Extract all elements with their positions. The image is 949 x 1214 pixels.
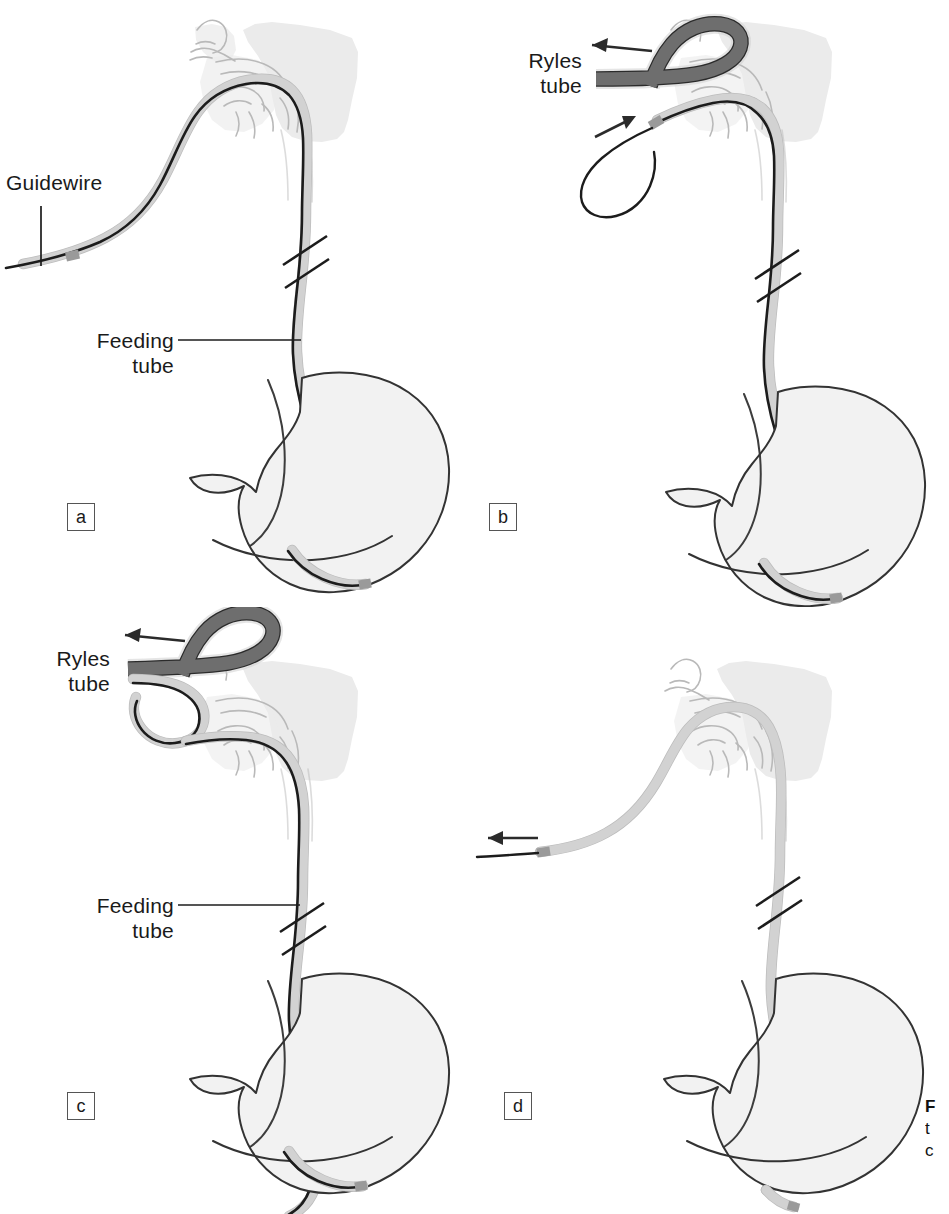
panel-tag-c: c — [67, 1092, 95, 1120]
guidewire-withdraw-arrow-head — [488, 831, 503, 845]
guidewire-label: Guidewire — [6, 170, 102, 195]
feeding-tube-label-c-line2: tube — [132, 919, 174, 942]
figure-caption: Ftc — [925, 1096, 949, 1176]
ryles-tube-label-b: Rylestube — [486, 48, 582, 98]
feeding-tube-label-line2: tube — [132, 354, 174, 377]
ryles-withdraw-arrow-head-c — [125, 628, 141, 642]
guide-push-arrow-head — [622, 116, 636, 129]
ryles-tube-label-c-line1: Ryles — [56, 647, 110, 670]
feeding-tube-label-a: Feedingtube — [50, 328, 174, 378]
ryles-withdraw-arrow-head — [592, 38, 608, 52]
feeding-tube-label-c-line1: Feeding — [97, 894, 174, 917]
withdrawn-guidewire — [477, 853, 538, 857]
feeding-tube-label-line1: Feeding — [97, 329, 174, 352]
ryles-tube-label-c-line2: tube — [68, 672, 110, 695]
guide-push-arrow-shaft — [595, 120, 629, 137]
feeding-tube-label-c: Feedingtube — [50, 893, 174, 943]
ryles-tube-label-b-line1: Ryles — [528, 49, 582, 72]
caption-line-3: c — [925, 1141, 934, 1160]
panel-tag-d: d — [504, 1092, 532, 1120]
panel-d-illustration — [474, 607, 949, 1214]
ryles-tube-label-b-line2: tube — [540, 74, 582, 97]
ryles-tube-label-c: Rylestube — [14, 646, 110, 696]
caption-line-1: F — [925, 1097, 935, 1116]
caption-line-2: t — [925, 1119, 930, 1138]
figure-root: Guidewire Feedingtube a — [0, 0, 949, 1214]
panel-tag-a: a — [67, 503, 95, 531]
panel-tag-b: b — [489, 503, 517, 531]
